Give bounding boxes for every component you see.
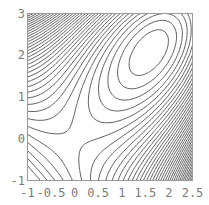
x-axis-tick-labels: -1-0.500.511.522.5 bbox=[20, 186, 203, 200]
y-tick-label: 2 bbox=[18, 48, 25, 62]
x-tick-label: -0.5 bbox=[37, 186, 66, 200]
contour-plot: -1-0.500.511.522.5 -10123 bbox=[0, 0, 209, 205]
x-tick-label: 2.5 bbox=[182, 186, 204, 200]
y-axis-tick-labels: -10123 bbox=[11, 7, 25, 188]
y-tick-label: 1 bbox=[18, 90, 25, 104]
contour-path bbox=[28, 14, 193, 181]
x-tick-label: 1.5 bbox=[135, 186, 157, 200]
y-tick-label: -1 bbox=[11, 174, 25, 188]
y-tick-label: 0 bbox=[18, 132, 25, 146]
contour-lines bbox=[28, 14, 193, 181]
x-tick-label: 1 bbox=[118, 186, 125, 200]
y-tick-label: 3 bbox=[18, 7, 25, 21]
x-tick-label: 0.5 bbox=[87, 186, 109, 200]
x-tick-label: -1 bbox=[20, 186, 34, 200]
x-tick-label: 2 bbox=[165, 186, 172, 200]
x-tick-label: 0 bbox=[71, 186, 78, 200]
